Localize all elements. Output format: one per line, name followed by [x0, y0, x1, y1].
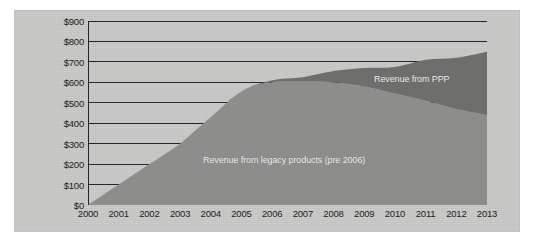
x-axis-tick: 2003	[170, 208, 190, 219]
series-label-legacy: Revenue from legacy products (pre 2006)	[203, 155, 365, 165]
x-axis-tick: 2009	[354, 208, 374, 219]
x-axis-tick: 2005	[231, 208, 251, 219]
series-label-ppp: Revenue from PPP	[374, 74, 449, 84]
x-axis-tick: 2013	[477, 208, 497, 219]
x-axis-tick: 2002	[139, 208, 159, 219]
area-chart-svg	[88, 21, 487, 205]
x-axis-tick: 2004	[201, 208, 221, 219]
x-axis-tick: 2010	[385, 208, 405, 219]
x-axis-tick: 2011	[416, 208, 436, 219]
y-axis-tick: $800	[40, 36, 84, 47]
x-axis-tick: 2008	[323, 208, 343, 219]
chart-figure: $0$100$200$300$400$500$600$700$800$900 2…	[0, 0, 539, 246]
y-axis-tick-labels: $0$100$200$300$400$500$600$700$800$900	[40, 21, 84, 205]
y-axis-tick: $200	[40, 159, 84, 170]
y-axis-tick: $100	[40, 179, 84, 190]
x-axis-tick: 2001	[109, 208, 129, 219]
x-axis-tick: 2007	[293, 208, 313, 219]
x-axis-tick-labels: 2000200120022003200420052006200720082009…	[88, 208, 487, 224]
y-axis-tick: $500	[40, 97, 84, 108]
y-axis-tick: $600	[40, 77, 84, 88]
y-axis-tick: $400	[40, 118, 84, 129]
y-axis-tick: $900	[40, 16, 84, 27]
x-axis-tick: 2006	[262, 208, 282, 219]
x-axis-tick: 2012	[446, 208, 466, 219]
plot-area	[88, 21, 487, 205]
y-axis-tick: $700	[40, 56, 84, 67]
x-axis-tick: 2000	[78, 208, 98, 219]
y-axis-tick: $300	[40, 138, 84, 149]
